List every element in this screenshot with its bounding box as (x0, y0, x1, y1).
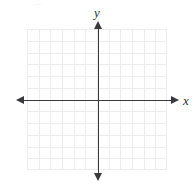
y-axis-down-arrowhead-icon (94, 173, 102, 181)
x-axis-left-arrowhead-icon (16, 96, 24, 104)
grid-bottom-edge (27, 169, 167, 170)
x-axis-right-arrowhead-icon (171, 96, 179, 104)
coordinate-plane-figure: — — y — — y x (0, 0, 196, 188)
y-axis-line (98, 27, 99, 177)
y-axis-label: y (94, 6, 100, 19)
x-axis-label: x (183, 94, 189, 107)
y-axis-up-arrowhead-icon (94, 21, 102, 29)
clipped-text-artifact: — — y — — (4, 0, 124, 5)
